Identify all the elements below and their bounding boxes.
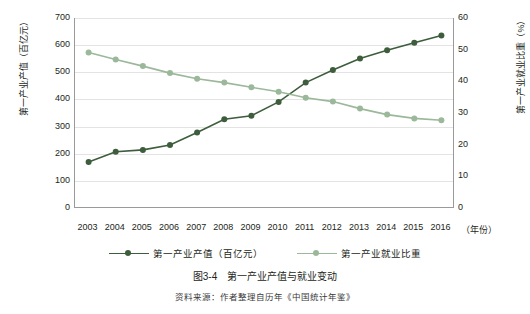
data-point [330,67,336,73]
data-point [194,130,200,136]
legend-item-production: 第一产业产值（百亿元） [109,246,263,260]
figure-caption: 图3-4 第一产业产值与就业变动 [0,268,530,283]
data-point [276,89,282,95]
data-point [438,117,444,123]
y-tick-left: 600 [40,40,70,49]
data-point [303,95,309,101]
plot-area [74,18,454,208]
data-point [303,80,309,86]
data-point [113,57,119,63]
y-tick-left: 500 [40,67,70,76]
y-tick-right: 0 [458,203,484,212]
data-point [194,76,200,82]
y-tick-left: 400 [40,94,70,103]
data-point [384,47,390,53]
y-tick-left: 700 [40,13,70,22]
y-tick-left: 100 [40,176,70,185]
data-point [113,149,119,155]
legend-dot [125,250,131,256]
y-tick-left: 0 [40,203,70,212]
data-point [411,40,417,46]
y-axis-left-title: 第一产业产值（百亿元） [17,0,30,152]
data-point [221,80,227,86]
legend-swatch-production [109,249,149,258]
data-point [438,32,444,38]
x-tick-label: 2016 [424,222,456,232]
series-line [89,35,442,161]
y-tick-right: 40 [458,76,484,85]
chart-legend: 第一产业产值（百亿元） 第一产业就业比重 [0,246,530,260]
data-point [276,99,282,105]
legend-item-employment: 第一产业就业比重 [297,246,421,260]
data-point [411,115,417,121]
y-tick-right: 60 [458,13,484,22]
figure-source: 资料来源：作者整理自历年《中国统计年鉴》 [0,290,530,302]
series-layer [75,18,455,208]
data-point [221,116,227,122]
data-point [248,113,254,119]
data-point [357,55,363,61]
data-point [330,99,336,105]
x-axis-unit-label: （年份） [461,225,497,235]
y-tick-left: 200 [40,149,70,158]
legend-label-employment: 第一产业就业比重 [341,246,421,260]
y-tick-left: 300 [40,122,70,131]
y-tick-right: 10 [458,171,484,180]
legend-swatch-employment [297,249,337,258]
series-line [89,53,442,121]
y-tick-right: 20 [458,140,484,149]
data-point [86,50,92,56]
chart-figure: 第一产业产值（百亿元） 第一产业就业比重（%） 7006005004003002… [0,0,530,314]
data-point [357,106,363,112]
legend-dot [313,250,319,256]
y-tick-right: 50 [458,45,484,54]
data-point [248,84,254,90]
data-point [167,142,173,148]
y-axis-right-title: 第一产业就业比重（%） [514,0,527,155]
data-point [140,147,146,153]
data-point [384,112,390,118]
data-point [86,159,92,165]
data-point [167,70,173,76]
data-point [140,63,146,69]
y-tick-right: 30 [458,108,484,117]
legend-label-production: 第一产业产值（百亿元） [153,246,263,260]
